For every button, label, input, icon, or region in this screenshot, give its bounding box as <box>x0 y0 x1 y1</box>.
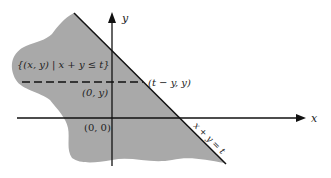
point-on-axis-label: (0, y) <box>82 87 108 98</box>
x-axis-arrow-icon <box>296 114 306 122</box>
point-on-line-label: (t − y, y) <box>148 77 191 88</box>
origin-label: (0, 0) <box>84 122 111 133</box>
x-axis-label: x <box>311 112 318 125</box>
shaded-region <box>12 13 225 163</box>
y-axis-arrow-icon <box>108 12 116 23</box>
half-plane-diagram: y x {(x, y) | x + y ≤ t} (t − y, y) (0, … <box>0 0 331 178</box>
set-label: {(x, y) | x + y ≤ t} <box>17 59 110 71</box>
y-axis-label: y <box>121 12 129 25</box>
